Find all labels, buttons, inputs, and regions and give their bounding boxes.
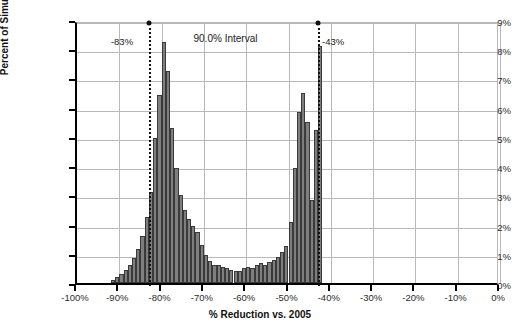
y-axis-tick: [69, 21, 75, 23]
y-axis-tick-label: 3%: [497, 192, 511, 203]
y-axis-tick-label: 9%: [497, 17, 511, 28]
y-axis-tick: [69, 167, 75, 169]
interval-bound-marker: [146, 21, 151, 26]
x-axis-tick: [243, 285, 245, 291]
interval-bound-marker: [316, 21, 321, 26]
plot-area: [75, 22, 498, 285]
y-axis-tick-label: 7%: [497, 75, 511, 86]
y-axis-tick-label: 8%: [497, 46, 511, 57]
x-axis-tick: [412, 285, 414, 291]
x-axis-title: % Reduction vs. 2005: [0, 309, 520, 320]
x-axis-tick: [328, 285, 330, 291]
interval-bound-line: [318, 23, 320, 286]
interval-span-label: 90.0% Interval: [194, 33, 258, 44]
x-axis-tick: [201, 285, 203, 291]
chart-figure: Percent of Simulations % Reduction vs. 2…: [0, 0, 520, 333]
y-axis-tick: [69, 79, 75, 81]
x-axis-tick: [159, 285, 161, 291]
y-axis-tick-label: 4%: [497, 163, 511, 174]
x-axis-tick-label: -60%: [233, 292, 255, 303]
x-axis-tick-label: -50%: [275, 292, 297, 303]
y-axis-tick-label: 1%: [497, 250, 511, 261]
y-axis-tick: [69, 196, 75, 198]
y-axis-tick: [69, 50, 75, 52]
x-axis-tick: [455, 285, 457, 291]
y-axis-tick-label: 2%: [497, 221, 511, 232]
y-axis-tick-label: 6%: [497, 104, 511, 115]
x-axis-tick-label: -40%: [318, 292, 340, 303]
y-axis-tick: [69, 109, 75, 111]
x-axis-tick-label: -20%: [402, 292, 424, 303]
histogram-bars: [77, 23, 497, 283]
x-axis-tick-label: -30%: [360, 292, 382, 303]
y-axis-title: Percent of Simulations: [0, 0, 10, 96]
x-axis-tick-label: -70%: [191, 292, 213, 303]
y-axis-tick: [69, 226, 75, 228]
y-axis-tick: [69, 255, 75, 257]
y-axis-tick: [69, 138, 75, 140]
x-axis-tick: [116, 285, 118, 291]
y-axis-tick-label: 0%: [497, 280, 511, 291]
interval-bound-line: [149, 23, 151, 286]
x-axis-tick: [497, 285, 499, 291]
x-axis-tick-label: -80%: [149, 292, 171, 303]
y-axis-tick-label: 5%: [497, 133, 511, 144]
interval-bound-label: -83%: [111, 36, 133, 47]
x-axis-tick: [286, 285, 288, 291]
gridline-vertical: [500, 23, 501, 283]
x-axis-tick-label: -100%: [61, 292, 88, 303]
x-axis-tick: [370, 285, 372, 291]
x-axis-tick: [74, 285, 76, 291]
interval-bound-label: -43%: [322, 36, 344, 47]
x-axis-tick-label: -90%: [106, 292, 128, 303]
x-axis-tick-label: -10%: [445, 292, 467, 303]
x-axis-tick-label: 0%: [491, 292, 505, 303]
